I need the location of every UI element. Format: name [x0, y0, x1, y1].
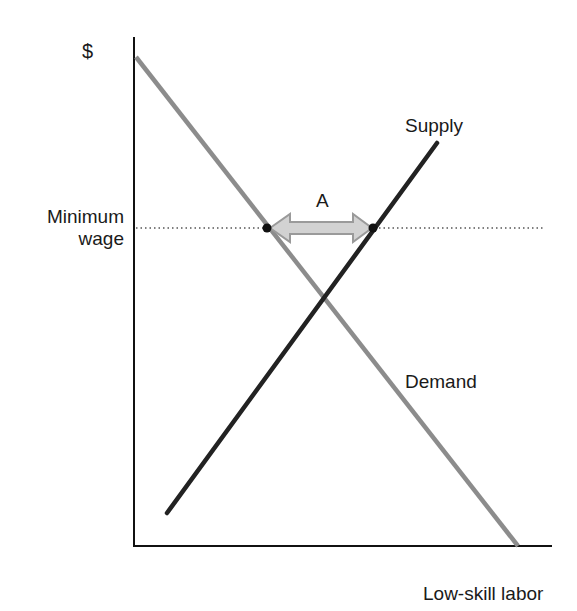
supply-curve — [167, 143, 437, 513]
y-axis-label: $ — [82, 41, 93, 61]
diagram-canvas — [0, 0, 577, 611]
supply-label: Supply — [405, 116, 463, 135]
supply-min-wage-point — [369, 224, 378, 233]
x-axis-label: Low-skill labor — [423, 584, 543, 603]
demand-min-wage-point — [263, 224, 272, 233]
surplus-double-arrow — [270, 214, 372, 242]
minimum-wage-label-line1: Minimum — [18, 206, 124, 228]
gap-label: A — [316, 191, 329, 210]
minimum-wage-label-line2: wage — [18, 228, 124, 250]
minimum-wage-label: Minimum wage — [18, 206, 124, 250]
demand-label: Demand — [405, 372, 477, 391]
